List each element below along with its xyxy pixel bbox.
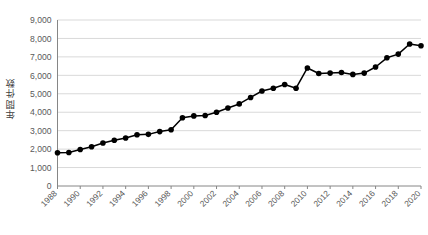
- y-tick-label: 9,000: [30, 15, 52, 25]
- y-tick-label: 4,000: [30, 107, 52, 117]
- data-point: [418, 43, 424, 49]
- y-axis-ticks: 01,0002,0003,0004,0005,0006,0007,0008,00…: [30, 15, 52, 191]
- data-point: [77, 147, 83, 153]
- data-point: [293, 85, 299, 91]
- data-point: [134, 132, 140, 138]
- y-tick-label: 7,000: [30, 52, 52, 62]
- x-tick-label: 2002: [198, 188, 218, 208]
- y-tick-label: 1,000: [30, 163, 52, 173]
- x-tick-label: 1992: [84, 188, 104, 208]
- x-tick-label: 1988: [39, 188, 59, 208]
- grid-lines: [58, 20, 422, 168]
- y-tick-label: 5,000: [30, 89, 52, 99]
- y-tick-label: 6,000: [30, 71, 52, 81]
- x-tick-label: 1990: [61, 188, 81, 208]
- x-tick-label: 1996: [130, 188, 150, 208]
- data-point: [180, 115, 186, 121]
- data-series-line: [58, 44, 422, 153]
- x-tick-label: 2012: [311, 188, 331, 208]
- data-point: [168, 127, 174, 133]
- data-point: [202, 113, 208, 119]
- data-point: [111, 137, 117, 143]
- x-tick-label: 2014: [334, 188, 354, 208]
- data-point: [316, 71, 322, 77]
- data-point: [407, 41, 413, 47]
- data-point: [350, 72, 356, 78]
- line-chart: 年間件数 01,0002,0003,0004,0005,0006,0007,00…: [0, 0, 428, 235]
- data-point: [89, 144, 95, 150]
- data-point: [361, 70, 367, 76]
- data-point: [373, 64, 379, 70]
- x-tick-label: 2000: [175, 188, 195, 208]
- data-point: [282, 82, 288, 88]
- data-point: [248, 95, 254, 101]
- x-axis-ticks: 1988199019921994199619982000200220042006…: [39, 186, 423, 209]
- data-point: [214, 109, 220, 115]
- x-tick-label: 2016: [357, 188, 377, 208]
- data-point: [66, 150, 72, 156]
- data-point: [305, 65, 311, 71]
- x-tick-label: 1994: [107, 188, 127, 208]
- data-point: [271, 85, 277, 91]
- x-tick-label: 2006: [243, 188, 263, 208]
- y-tick-label: 2,000: [30, 144, 52, 154]
- chart-canvas: 01,0002,0003,0004,0005,0006,0007,0008,00…: [0, 0, 428, 235]
- data-point: [339, 70, 345, 76]
- x-tick-label: 2018: [379, 188, 399, 208]
- data-point: [123, 135, 129, 141]
- data-point: [55, 150, 61, 156]
- data-point: [259, 88, 265, 94]
- x-tick-label: 2008: [266, 188, 286, 208]
- x-tick-label: 2010: [289, 188, 309, 208]
- x-tick-label: 2020: [402, 188, 422, 208]
- data-point: [157, 129, 163, 135]
- y-tick-label: 3,000: [30, 126, 52, 136]
- data-point: [395, 51, 401, 57]
- data-point: [191, 113, 197, 119]
- data-point: [146, 132, 152, 138]
- data-point: [384, 55, 390, 61]
- x-tick-label: 2004: [220, 188, 240, 208]
- y-tick-label: 8,000: [30, 34, 52, 44]
- data-point: [236, 101, 242, 107]
- data-point: [100, 140, 106, 146]
- data-point: [327, 70, 333, 76]
- data-point-markers: [55, 41, 424, 155]
- data-point: [225, 105, 231, 111]
- x-tick-label: 1998: [152, 188, 172, 208]
